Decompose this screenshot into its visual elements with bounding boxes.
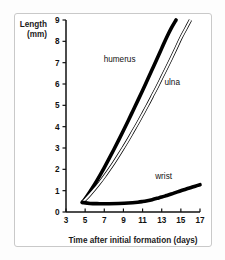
y-axis-ticks: 0123456789	[55, 16, 66, 217]
x-tick-label: 17	[195, 216, 205, 225]
x-tick-label: 13	[157, 216, 167, 225]
y-tick-label: 1	[55, 187, 60, 196]
x-axis-ticks: 357911131517	[64, 209, 205, 226]
series-label-humerus: humerus	[104, 55, 136, 64]
y-tick-label: 8	[55, 37, 60, 46]
y-tick-label: 2	[55, 165, 60, 174]
x-tick-label: 15	[176, 216, 186, 225]
y-tick-label: 0	[55, 208, 60, 217]
series-label-ulna: ulna	[164, 78, 180, 87]
data-series-group	[82, 20, 200, 204]
x-tick-label: 3	[64, 216, 69, 225]
series-label-wrist: wrist	[154, 172, 173, 181]
x-tick-label: 5	[83, 216, 88, 225]
y-tick-label: 3	[55, 144, 60, 153]
series-line-wrist	[82, 185, 200, 204]
x-tick-label: 9	[121, 216, 126, 225]
x-tick-label: 11	[138, 216, 147, 225]
x-axis-label: Time after initial formation (days)	[68, 236, 197, 245]
y-axis-label-line1: Length	[20, 20, 47, 29]
y-tick-label: 4	[55, 123, 60, 132]
y-axis-label-line2: (mm)	[27, 30, 47, 39]
chart-plot-area: 0123456789 357911131517 humerusulnawrist…	[0, 0, 225, 260]
y-tick-label: 6	[55, 80, 60, 89]
x-tick-label: 7	[102, 216, 107, 225]
y-tick-label: 5	[55, 101, 60, 110]
chart-figure: 0123456789 357911131517 humerusulnawrist…	[0, 0, 225, 260]
y-tick-label: 7	[55, 59, 60, 68]
y-tick-label: 9	[55, 16, 60, 25]
axes-group	[66, 20, 200, 212]
